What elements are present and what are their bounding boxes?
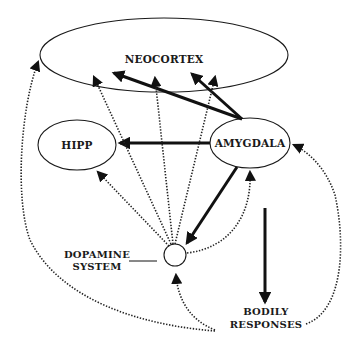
dopamine-circle [164, 244, 186, 266]
dopamine-label-line1: DOPAMINE [64, 249, 130, 260]
bodily-label-line1: BODILY [243, 306, 289, 317]
dotted-edges [21, 62, 340, 331]
edge-dopamine-amygdala [187, 172, 250, 253]
solid-edges [114, 73, 265, 302]
edge-dopamine-hipp [98, 172, 169, 246]
amygdala-node: AMYGDALA [210, 118, 290, 168]
dopamine-node: DOPAMINE SYSTEM [64, 244, 186, 272]
dopamine-label-line2: SYSTEM [73, 261, 122, 272]
bodily-responses-node: BODILY RESPONSES [230, 306, 302, 330]
edge-dopamine-neocortex-2 [155, 78, 173, 244]
neocortex-node: NEOCORTEX [40, 18, 288, 92]
edge-amygdala-dopamine [187, 167, 237, 243]
edge-bodily-dopamine [176, 275, 215, 330]
bodily-label-line2: RESPONSES [230, 319, 302, 330]
neocortex-label: NEOCORTEX [125, 53, 204, 65]
amygdala-label: AMYGDALA [214, 137, 286, 149]
brain-circuit-diagram: NEOCORTEX HIPP AMYGDALA DOPAMINE SYSTEM … [0, 0, 354, 347]
edge-bodily-amygdala [294, 145, 341, 324]
hipp-node: HIPP [38, 120, 116, 170]
hipp-label: HIPP [61, 139, 92, 151]
